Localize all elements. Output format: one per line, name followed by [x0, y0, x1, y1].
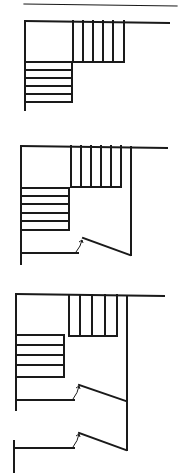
door: [21, 238, 130, 255]
plan-1: [25, 21, 169, 110]
top-wall: [25, 21, 169, 23]
stair-plans-drawing: [0, 0, 181, 473]
door: [16, 433, 126, 450]
plan-3: [14, 294, 164, 473]
door: [16, 385, 126, 401]
top-wall: [16, 294, 164, 296]
top-wall: [21, 146, 167, 148]
header-rule: [24, 4, 177, 6]
door-leaf: [79, 433, 126, 450]
door-leaf: [83, 238, 130, 255]
plan-2: [21, 146, 167, 264]
door-leaf: [79, 385, 126, 401]
